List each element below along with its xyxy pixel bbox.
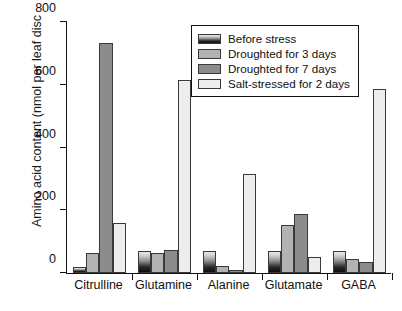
chart-legend: Before stressDroughted for 3 daysDrought… [191,25,359,97]
y-axis-tick [60,21,67,22]
bar [294,214,307,273]
bar [216,266,229,273]
legend-label: Salt-stressed for 2 days [228,78,350,90]
legend-swatch-icon [198,34,221,44]
x-axis-tick [392,273,393,280]
legend-label: Droughted for 3 days [228,48,336,60]
bar [359,262,372,273]
y-axis-title: Amino acid content (nmol per leaf disc [30,0,48,246]
y-axis-tick-label: 800 [35,1,56,15]
bar-group [73,22,126,273]
y-axis-tick-label: 400 [35,127,56,141]
bar [268,251,281,273]
bar [164,250,177,273]
bar [138,251,151,273]
x-axis-category-label: Glutamate [265,278,323,292]
legend-item: Salt-stressed for 2 days [198,76,350,91]
bar [243,174,256,273]
bar [203,251,216,273]
bar [99,43,112,273]
bar-chart-figure: Amino acid content (nmol per leaf disc 0… [0,0,402,311]
legend-item: Droughted for 3 days [198,46,350,61]
legend-swatch-icon [198,64,221,74]
bar [178,80,191,273]
x-axis-category-label: Citrulline [74,278,123,292]
x-axis-tick [262,273,263,280]
x-axis-category-label: GABA [341,278,376,292]
y-axis-tick [60,272,67,273]
legend-item: Before stress [198,31,350,46]
bar [333,251,346,273]
x-axis-category-label: Glutamine [135,278,192,292]
legend-label: Droughted for 7 days [228,63,336,75]
bar [73,267,86,273]
bar [229,270,242,273]
bar-group [138,22,191,273]
legend-swatch-icon [198,49,221,59]
bar [346,259,359,273]
bar [281,225,294,273]
bar [113,223,126,273]
y-axis-tick-label: 600 [35,64,56,78]
x-axis-tick [132,273,133,280]
legend-item: Droughted for 7 days [198,61,350,76]
y-axis-tick [60,147,67,148]
y-axis-tick-label: 0 [49,252,56,266]
x-axis-tick [327,273,328,280]
y-axis-tick [60,84,67,85]
bar [86,253,99,273]
bar [151,253,164,273]
y-axis-tick [60,209,67,210]
legend-label: Before stress [228,33,296,45]
legend-swatch-icon [198,79,221,89]
bar [308,257,321,273]
y-axis-tick-label: 200 [35,189,56,203]
x-axis-category-label: Alanine [208,278,250,292]
bar [373,89,386,273]
x-axis-tick [197,273,198,280]
